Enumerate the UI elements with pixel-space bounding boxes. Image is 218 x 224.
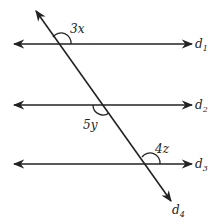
line-label-d4: d4 bbox=[172, 203, 185, 219]
line-label-d3: d3 bbox=[195, 157, 208, 173]
line-d4-transversal bbox=[36, 11, 171, 201]
angle-label-3x: 3x bbox=[70, 22, 85, 36]
angle-label-5y: 5y bbox=[83, 118, 98, 132]
parallel-lines-diagram: 3x 5y 4z d1 d2 d3 d4 bbox=[0, 0, 218, 224]
line-label-d2: d2 bbox=[195, 98, 208, 114]
line-label-d1: d1 bbox=[195, 37, 208, 53]
angle-label-4z: 4z bbox=[154, 142, 170, 156]
